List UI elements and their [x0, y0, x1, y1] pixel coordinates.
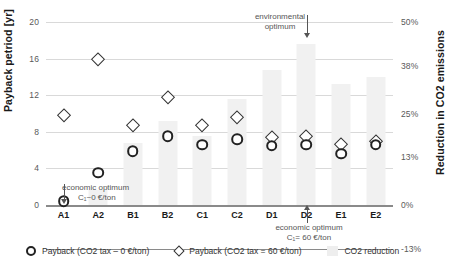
y-tick-right-label-38: 38%: [401, 61, 418, 71]
plot-area: 20 16 12 8 4 0 50% 38% 25% 13% 0% -13%: [46, 22, 393, 205]
bar-swatch-icon: [327, 246, 338, 256]
circle-marker-B1: [127, 145, 139, 157]
y-tick-label-12: 12: [29, 90, 39, 100]
circle-marker-B2: [162, 131, 174, 143]
y-tick-right-label-13: 13%: [401, 152, 418, 162]
circle-marker-A2: [92, 167, 104, 179]
chart-legend: Payback (CO2 tax – 0 €/ton) Payback (CO2…: [26, 243, 436, 259]
annotation-economic-optimum-d2-line1: economic optimum: [254, 223, 364, 233]
circle-marker-C1: [197, 139, 209, 151]
legend-label-payback-tax-0: Payback (CO2 tax – 0 €/ton): [42, 246, 149, 256]
circle-marker-E2: [370, 139, 382, 151]
chart-container: Payback petriod [yr] Reduction in CO2 em…: [0, 0, 462, 267]
x-label-D1: D1: [266, 210, 278, 220]
x-label-B2: B2: [162, 210, 174, 220]
diamond-marker-A1: [57, 109, 70, 122]
circle-marker-E1: [335, 148, 347, 160]
x-label-C2: C2: [231, 210, 243, 220]
x-label-C1: C1: [197, 210, 209, 220]
circle-marker-icon: [26, 246, 36, 256]
legend-label-payback-tax-60: Payback (CO2 tax = 60 €/ton): [189, 246, 301, 256]
circle-marker-D1: [266, 140, 278, 152]
y-tick-right-label-50: 50%: [401, 17, 418, 27]
legend-item-co2-reduction[interactable]: CO2 reduction: [327, 246, 399, 256]
x-label-B1: B1: [127, 210, 139, 220]
annotation-environmental-optimum: environmental optimum: [232, 12, 328, 32]
y-tick-label-0: 0: [34, 200, 39, 210]
y-axis-title-right: Reduction in CO2 emissions: [434, 30, 446, 175]
bar-D2: [297, 44, 316, 205]
circle-marker-D2: [301, 139, 313, 151]
x-label-A1: A1: [58, 210, 70, 220]
annotation-economic-optimum-a1-line1: economic optimum: [62, 183, 172, 193]
y-tick-label-8: 8: [34, 127, 39, 137]
legend-item-payback-tax-0[interactable]: Payback (CO2 tax – 0 €/ton): [26, 246, 149, 256]
diamond-marker-A2: [91, 52, 104, 65]
legend-item-payback-tax-60[interactable]: Payback (CO2 tax = 60 €/ton): [175, 246, 301, 256]
y-axis-title-left: Payback petriod [yr]: [2, 9, 14, 112]
diamond-marker-icon: [174, 245, 185, 256]
x-label-E1: E1: [336, 210, 347, 220]
annotation-economic-optimum-a1: economic optimum C₁~0 €/ton: [62, 183, 172, 203]
gridline-20: [46, 22, 393, 23]
y-tick-right-label-25: 25%: [401, 109, 418, 119]
y-tick-label-20: 20: [29, 17, 39, 27]
x-axis-line: [46, 205, 393, 207]
annotation-economic-optimum-a1-line2: C₁~0 €/ton: [62, 193, 172, 203]
x-label-E2: E2: [370, 210, 381, 220]
annotation-economic-optimum-d2-line2: C₁= 60 €/ton: [254, 233, 364, 243]
y-tick-label-4: 4: [34, 163, 39, 173]
diamond-marker-B1: [126, 119, 139, 132]
arrow-up-icon-economic-d2: [307, 209, 308, 223]
y-tick-label-16: 16: [29, 54, 39, 64]
annotation-environmental-optimum-line2: optimum: [232, 22, 328, 32]
arrow-down-icon-environmental: [307, 15, 308, 34]
x-label-A2: A2: [92, 210, 104, 220]
diamond-marker-C1: [196, 118, 209, 131]
y-tick-right-label-0: 0%: [401, 200, 414, 210]
diamond-marker-B2: [161, 90, 174, 103]
arrow-down-icon-economic-a1: [64, 184, 65, 200]
circle-marker-C2: [231, 133, 243, 145]
annotation-environmental-optimum-line1: environmental: [232, 12, 328, 22]
legend-label-co2-reduction: CO2 reduction: [344, 246, 399, 256]
annotation-economic-optimum-d2: economic optimum C₁= 60 €/ton: [254, 223, 364, 243]
